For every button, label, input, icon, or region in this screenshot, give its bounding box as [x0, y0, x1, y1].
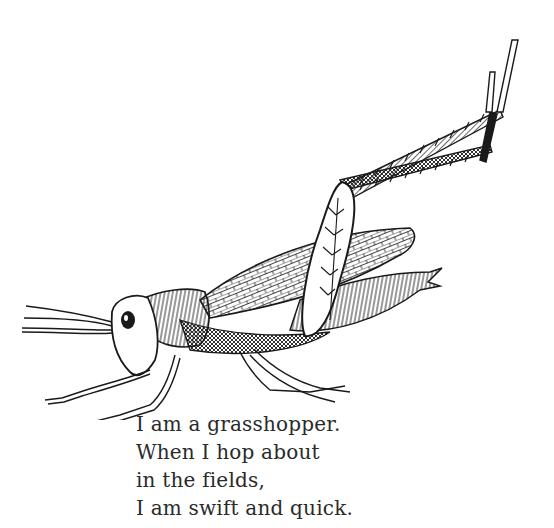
hind-leg-lower: [340, 40, 518, 198]
poem-line-3: in the fields,: [136, 466, 353, 494]
grasshopper-illustration: [0, 0, 554, 420]
poem-line-1: I am a grasshopper.: [136, 410, 353, 438]
poem-line-4: I am swift and quick.: [136, 494, 353, 522]
book-page: I am a grasshopper. When I hop about in …: [0, 0, 554, 528]
poem-text: I am a grasshopper. When I hop about in …: [136, 410, 353, 522]
head: [112, 296, 158, 376]
antennae: [22, 306, 112, 334]
eye: [121, 311, 135, 329]
poem-line-2: When I hop about: [136, 438, 353, 466]
middle-legs: [240, 350, 350, 402]
